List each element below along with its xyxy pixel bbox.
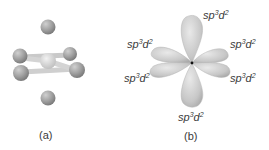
ligand-atom bbox=[41, 91, 56, 106]
orbital-lobe-upper-right bbox=[192, 49, 228, 63]
orbital-label-upper-left: sp3d2 bbox=[127, 38, 153, 50]
orbital-label-bottom: sp3d2 bbox=[178, 111, 204, 123]
orbital-label-top: sp3d2 bbox=[203, 9, 229, 21]
panel-label-a: (a) bbox=[39, 130, 52, 141]
ligand-atom bbox=[69, 62, 85, 78]
ligand-atom bbox=[41, 20, 56, 35]
ligand-atom bbox=[13, 49, 28, 64]
orbital-lobe-bottom bbox=[181, 63, 203, 107]
sp3d2-orbitals bbox=[150, 15, 230, 107]
nucleus-dot bbox=[191, 62, 194, 65]
ligand-atom bbox=[13, 65, 29, 81]
octahedral-molecule bbox=[13, 20, 86, 106]
orbital-label-lower-left: sp3d2 bbox=[124, 72, 150, 84]
panel-label-b: (b) bbox=[184, 131, 197, 142]
central-atom bbox=[40, 53, 56, 69]
orbital-label-upper-right: sp3d2 bbox=[230, 38, 256, 50]
orbital-label-lower-right: sp3d2 bbox=[230, 72, 256, 84]
ligand-atom bbox=[63, 47, 77, 61]
